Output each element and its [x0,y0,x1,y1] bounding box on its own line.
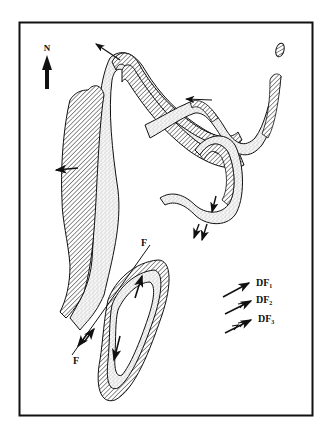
df1-arrow-icon [96,44,120,60]
double-barb-arrow-icon [225,301,251,314]
svg-text:DF3: DF3 [258,313,274,325]
svg-text:DF1: DF1 [256,277,272,289]
df2-arrow-icon [212,196,216,212]
fault-label-top: F [141,237,147,248]
legend-item-df2: DF2 [225,294,272,314]
legend: DF1 DF2 DF3 [223,277,274,333]
single-barb-arrow-icon [223,283,249,297]
df2-arrow-icon [194,224,199,238]
fold-map-figure: N F F [0,0,332,439]
triple-barb-arrow-icon [225,320,251,333]
north-label: N [44,43,51,53]
lower-closed-fold [98,260,169,401]
df1-arrow-icon [186,99,212,100]
df2-arrow-icon [202,224,207,240]
fault-label-bottom: F [73,355,79,366]
isolated-lens [274,42,285,58]
inner-s-fold [160,136,243,224]
svg-text:DF2: DF2 [256,294,272,306]
north-arrow-icon: N [42,43,52,89]
legend-item-df3: DF3 [225,313,274,333]
